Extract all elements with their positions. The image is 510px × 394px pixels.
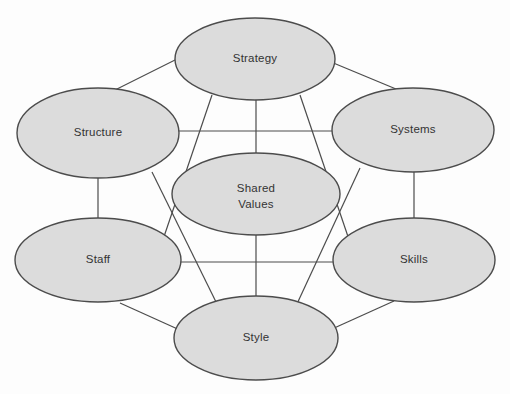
node-label-structure: Structure [74,126,122,138]
link-structure-strategy [115,57,181,90]
seven-s-framework-diagram: Strategy Structure Systems Shared Values… [0,0,510,394]
node-label-shared-values-line1: Shared [237,182,275,194]
link-staff-style [120,303,182,331]
node-systems[interactable]: Systems [332,88,494,172]
node-label-style: Style [243,331,270,343]
node-label-staff: Staff [86,253,111,265]
link-style-skills [332,301,394,329]
node-shared-values[interactable]: Shared Values [172,153,340,235]
node-style[interactable]: Style [174,296,338,380]
node-skills[interactable]: Skills [333,218,495,302]
node-label-skills: Skills [400,253,428,265]
node-shape-shared-values[interactable] [172,153,340,235]
node-strategy[interactable]: Strategy [175,18,335,100]
node-staff[interactable]: Staff [15,218,181,302]
node-label-shared-values-line2: Values [238,198,274,210]
node-label-strategy: Strategy [233,52,277,64]
node-structure[interactable]: Structure [17,88,179,178]
node-label-systems: Systems [390,123,436,135]
link-strategy-systems [331,62,396,89]
diagram-canvas: Strategy Structure Systems Shared Values… [0,0,510,394]
